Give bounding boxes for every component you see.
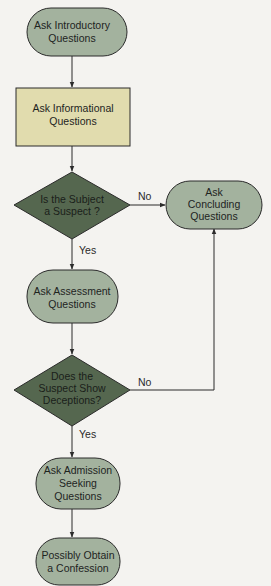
decision-label-line: Does the <box>51 370 93 382</box>
node-label-line: Questions <box>48 32 95 44</box>
node-label-line: a Confession <box>47 562 108 574</box>
node-possibly-obtain-confession: Possibly Obtain a Confession <box>36 538 120 585</box>
node-label-line: Questions <box>49 115 96 127</box>
node-ask-introductory-questions: Ask Introductory Questions <box>27 8 127 56</box>
node-label-line: Ask Assessment <box>33 285 110 297</box>
flowchart: No Yes No Yes Ask Introductory Questions… <box>0 0 271 586</box>
node-label-line: Seeking <box>59 477 97 489</box>
node-label-line: Ask Introductory <box>34 19 111 31</box>
decision-label-line: a Suspect ? <box>44 205 100 217</box>
node-label-line: Concluding <box>188 198 241 210</box>
node-label-line: Ask Admission <box>44 464 112 476</box>
node-ask-informational-questions: Ask Informational Questions <box>16 88 130 146</box>
node-label-line: Questions <box>54 490 101 502</box>
decision-label-line: Is the Subject <box>40 193 104 205</box>
edge-label-suspect-yes: Yes <box>79 244 96 256</box>
node-ask-concluding-questions: Ask Concluding Questions <box>166 181 262 229</box>
decision-label-line: Suspect Show <box>38 382 106 394</box>
node-label-line: Ask Informational <box>32 102 113 114</box>
node-ask-admission-seeking-questions: Ask Admission Seeking Questions <box>36 458 120 509</box>
node-label-line: Questions <box>48 298 95 310</box>
node-ask-assessment-questions: Ask Assessment Questions <box>27 270 118 323</box>
node-label-line: Ask <box>205 186 223 198</box>
node-label-line: Possibly Obtain <box>42 549 115 561</box>
edge-deception-no <box>130 229 214 390</box>
edge-label-suspect-no: No <box>138 190 152 202</box>
decision-suspect-shows-deception: Does the Suspect Show Deceptions? <box>14 355 130 426</box>
decision-is-subject-suspect: Is the Subject a Suspect ? <box>14 172 130 239</box>
decision-label-line: Deceptions? <box>43 394 102 406</box>
edge-label-deception-yes: Yes <box>79 428 96 440</box>
edge-label-deception-no: No <box>138 376 152 388</box>
node-label-line: Questions <box>190 210 237 222</box>
